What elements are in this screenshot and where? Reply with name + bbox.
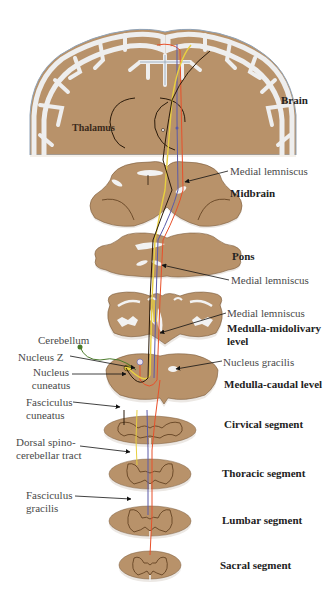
lumbar-segment — [109, 506, 191, 539]
dorsal-spinocerebellar-label-line2: cerebellar tract — [16, 449, 82, 461]
cervical-segment — [104, 416, 196, 448]
fasciculus-gracilis-label-line1: Fasciculus — [26, 489, 72, 501]
medial-lemniscus-midbrain-label: Medial lemniscus — [230, 165, 308, 177]
medial-lemniscus-medulla-label: Medial lemniscus — [227, 307, 305, 319]
sacral-segment — [119, 551, 181, 582]
medial-lemniscus-pons-label: Medial lemniscus — [231, 274, 309, 286]
level-label-brain: Brain — [281, 94, 308, 107]
fasciculus-cuneatus-label-line2: cuneatus — [26, 409, 64, 421]
neuroanatomy-diagram: Thalamus Brain Medial lemniscus Midbrain… — [0, 0, 334, 599]
nucleus-cuneatus-label-line1: Nucleus — [28, 366, 74, 378]
brain-section — [30, 29, 296, 157]
pons-section — [95, 233, 241, 279]
dorsal-spinocerebellar-label-line1: Dorsal spino- — [16, 436, 76, 448]
level-label-thoracic: Thoracic segment — [222, 467, 305, 480]
fasciculus-cuneatus-label-line1: Fasciculus — [26, 396, 72, 408]
level-label-cervical: Cirvical segment — [224, 418, 303, 431]
cerebellum-label: Cerebellum — [38, 334, 89, 346]
level-label-midbrain: Midbrain — [230, 187, 275, 200]
thoracic-segment — [109, 459, 191, 492]
thalamus-label: Thalamus — [72, 122, 115, 133]
nucleus-cuneatus-label-line2: cuneatus — [28, 379, 74, 391]
fasciculus-gracilis-label-line2: gracilis — [26, 502, 58, 514]
level-label-medulla-caudal: Medulla-caudal level — [224, 378, 322, 391]
level-label-medulla-midolivary-line1: Medulla-midolivary — [227, 322, 321, 335]
level-label-medulla-midolivary-line2: level — [227, 335, 248, 348]
level-label-pons: Pons — [232, 250, 255, 263]
nucleus-gracilis-label: Nucleus gracilis — [223, 356, 294, 368]
nucleus-z-label: Nucleus Z — [18, 351, 64, 363]
level-label-sacral: Sacral segment — [220, 559, 291, 572]
level-label-lumbar: Lumbar segment — [222, 514, 302, 527]
